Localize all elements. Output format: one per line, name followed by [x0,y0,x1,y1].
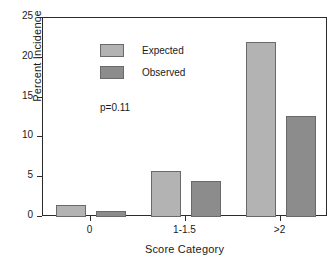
x-axis-title: Score Category [42,243,327,255]
legend-item-observed: Observed [100,66,185,79]
bar-observed-1 [191,181,221,217]
legend-item-expected: Expected [100,44,185,57]
legend-swatch-observed [100,66,124,79]
y-tick: 15 [0,97,42,98]
y-tick-mark [37,176,42,177]
y-tick: 25 [0,17,42,18]
bar-expected-1 [151,171,181,217]
bar-chart: Percent Incidence Expected Observed p=0.… [0,0,336,266]
y-tick-label: 5 [27,169,33,180]
bar-observed-0 [96,211,126,217]
y-tick: 10 [0,136,42,137]
legend-label-expected: Expected [142,45,184,56]
p-value-annotation: p=0.11 [100,102,130,113]
chart-legend: Expected Observed [100,44,185,88]
x-tick-mark [90,216,91,221]
x-tick-mark [185,216,186,221]
bar-expected-0 [56,205,86,217]
y-tick-mark [37,216,42,217]
y-tick-mark [37,57,42,58]
y-tick-label: 0 [27,209,33,220]
x-tick-label: 0 [50,224,130,235]
y-tick-label: 25 [22,10,33,21]
legend-label-observed: Observed [142,67,185,78]
y-tick-mark [37,136,42,137]
bar-expected-2 [246,42,276,217]
y-tick: 20 [0,57,42,58]
plot-area: Expected Observed p=0.11 [42,17,327,216]
y-tick: 0 [0,216,42,217]
y-tick-mark [37,17,42,18]
x-tick-mark [280,216,281,221]
y-tick-label: 10 [22,129,33,140]
legend-swatch-expected [100,44,124,57]
y-tick: 5 [0,176,42,177]
x-tick-label: 1-1.5 [145,224,225,235]
y-tick-mark [37,97,42,98]
x-tick-label: >2 [240,224,320,235]
y-tick-label: 15 [22,90,33,101]
bar-observed-2 [286,116,316,217]
y-tick-label: 20 [22,50,33,61]
